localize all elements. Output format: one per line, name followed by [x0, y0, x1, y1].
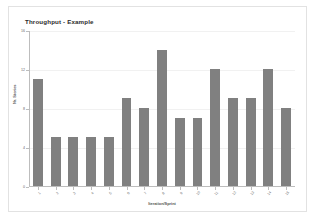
x-axis-tick-label: 6	[122, 188, 133, 199]
x-axis-tick-label: 15	[282, 188, 293, 199]
x-axis-tick-label: 12	[229, 188, 240, 199]
x-axis-tick	[127, 187, 128, 190]
x-axis-tick-label: 5	[105, 188, 116, 199]
plot-area: 0481216 123456789101112131415 Iteration/…	[29, 31, 295, 187]
y-axis-tick	[26, 109, 29, 110]
y-axis-tick-label: 16	[21, 29, 25, 33]
chart-title: Throughput - Example	[25, 18, 94, 25]
x-axis-tick-label: 1	[34, 188, 45, 199]
x-axis-tick-label: 14	[264, 188, 275, 199]
bar	[228, 98, 238, 186]
bar	[263, 69, 273, 186]
x-axis-tick-label: 4	[87, 188, 98, 199]
y-axis-tick	[26, 187, 29, 188]
x-axis-tick-label: 11	[211, 188, 222, 199]
y-axis-tick-label: 12	[21, 68, 25, 72]
y-axis-title: Nr. Stories	[12, 85, 17, 104]
bar	[86, 137, 96, 186]
bar	[33, 79, 43, 186]
y-axis-tick-label: 8	[23, 107, 25, 111]
x-axis-tick	[56, 187, 57, 190]
bar	[157, 50, 167, 187]
x-axis-tick-label: 9	[175, 188, 186, 199]
bar	[210, 69, 220, 186]
bar	[104, 137, 114, 186]
y-axis-tick	[26, 148, 29, 149]
bar	[193, 118, 203, 186]
y-axis-tick-label: 0	[23, 185, 25, 189]
chart-frame: Throughput - Example 0481216 12345678910…	[8, 6, 307, 212]
y-axis-tick	[26, 70, 29, 71]
x-axis-title: Iteration/Sprint	[29, 201, 295, 206]
x-axis-tick-label: 7	[140, 188, 151, 199]
x-axis-tick-label: 8	[158, 188, 169, 199]
bar	[139, 108, 149, 186]
x-axis-tick-label: 3	[69, 188, 80, 199]
bar	[51, 137, 61, 186]
x-axis-tick-label: 2	[51, 188, 62, 199]
y-axis-tick-label: 4	[23, 146, 25, 150]
gridline	[30, 31, 295, 32]
bar	[246, 98, 256, 186]
x-axis-tick-label: 10	[193, 188, 204, 199]
bar	[122, 98, 132, 186]
bar	[175, 118, 185, 186]
bar	[68, 137, 78, 186]
y-axis-tick	[26, 31, 29, 32]
x-axis-tick-label: 13	[246, 188, 257, 199]
bar	[281, 108, 291, 186]
